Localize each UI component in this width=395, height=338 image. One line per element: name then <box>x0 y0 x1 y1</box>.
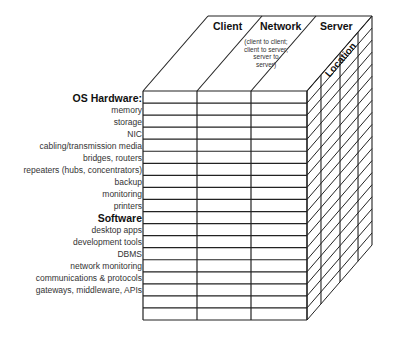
row-label: backup <box>115 176 142 188</box>
row-label: repeaters (hubs, concentrators) <box>23 164 142 176</box>
row-label: bridges, routers <box>83 152 142 164</box>
column-header-client: Client <box>213 20 242 32</box>
row-group-heading: OS Hardware: <box>73 92 142 104</box>
row-label: network monitoring <box>70 260 142 272</box>
row-label: NIC <box>127 128 142 140</box>
row-label: memory <box>111 104 142 116</box>
row-label: printers <box>114 200 142 212</box>
row-label: DBMS <box>117 248 142 260</box>
row-label: storage <box>114 116 142 128</box>
column-header-server: Server <box>320 20 353 32</box>
row-label: development tools <box>73 236 142 248</box>
row-label: gateways, middleware, APIs <box>36 284 142 296</box>
row-label: desktop apps <box>91 224 142 236</box>
row-label: cabling/transmission media <box>39 140 142 152</box>
row-label: communications & protocols <box>36 272 142 284</box>
row-label: monitoring <box>102 188 142 200</box>
row-group-heading: Software <box>98 212 142 224</box>
top-face-diagonal <box>143 16 208 91</box>
column-note-network: (client to client; client to server; ser… <box>243 38 289 68</box>
column-header-network: Network <box>260 20 301 32</box>
